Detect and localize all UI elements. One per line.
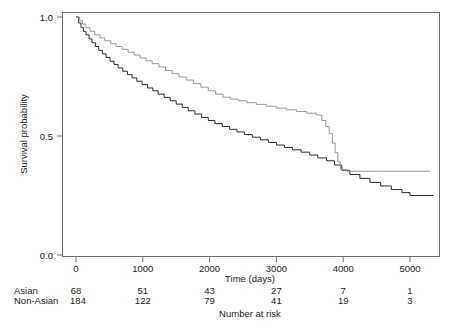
risk-non-asian-4000: 19: [338, 295, 349, 306]
x-tick-label-5000: 5000: [399, 263, 420, 274]
y-tick-label-0p5: 0.5: [40, 131, 53, 142]
x-axis-title: Time (days): [225, 273, 275, 284]
x-axis-ticks: [76, 257, 410, 263]
survival-plot-figure: 1.0 0.5 0.0 Survival probability 0 1000 …: [0, 0, 460, 331]
risk-non-asian-5000: 3: [407, 295, 412, 306]
risk-table-caption: Number at risk: [219, 308, 281, 319]
y-axis-ticks: [57, 17, 63, 255]
x-tick-label-2000: 2000: [199, 263, 220, 274]
x-tick-label-0: 0: [73, 263, 78, 274]
x-tick-label-1000: 1000: [132, 263, 153, 274]
y-tick-label-0: 0.0: [40, 250, 53, 261]
curve-non-asian: [76, 17, 433, 196]
risk-non-asian-0: 184: [70, 295, 86, 306]
risk-non-asian-2000: 79: [204, 295, 215, 306]
survival-curves: [76, 17, 433, 196]
y-axis-title: Survival probability: [18, 94, 29, 174]
risk-row-label-non-asian: Non-Asian: [14, 295, 58, 306]
kaplan-meier-chart: 1.0 0.5 0.0 Survival probability 0 1000 …: [0, 0, 460, 331]
y-tick-label-1: 1.0: [40, 12, 53, 23]
curve-asian: [76, 17, 430, 171]
risk-table: Asian Non-Asian 68 51 43 27 7 1 184 122 …: [14, 285, 413, 319]
risk-non-asian-1000: 122: [135, 295, 151, 306]
risk-non-asian-3000: 41: [271, 295, 282, 306]
x-tick-label-4000: 4000: [333, 263, 354, 274]
